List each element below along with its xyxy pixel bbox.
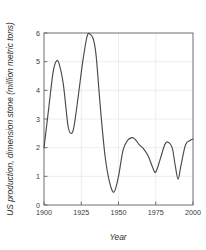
x-tick-label: 1950	[111, 208, 127, 217]
y-tick-label: 1	[36, 172, 40, 181]
y-tick-label: 6	[36, 29, 40, 38]
y-tick-label: 2	[36, 143, 40, 152]
x-tick-label: 2000	[185, 208, 201, 217]
line-chart: 19001925195019752000 0123456 Year US pro…	[0, 0, 206, 250]
y-tick-label: 4	[36, 86, 40, 95]
y-tick-label: 0	[36, 201, 40, 210]
x-axis-title: Year	[109, 232, 127, 242]
chart-background	[0, 0, 206, 250]
y-axis-title: US production, dimension stone (million …	[5, 22, 15, 216]
x-tick-label: 1975	[148, 208, 164, 217]
y-tick-label: 5	[36, 57, 40, 66]
y-tick-label: 3	[36, 115, 40, 124]
chart-container: 19001925195019752000 0123456 Year US pro…	[0, 0, 206, 250]
x-tick-label: 1925	[73, 208, 89, 217]
